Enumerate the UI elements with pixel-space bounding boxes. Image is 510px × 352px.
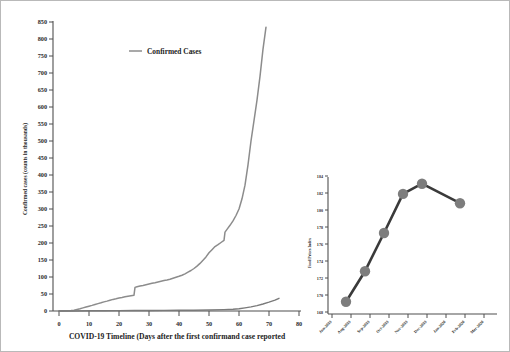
inset-x-tick: Jun-2019	[318, 314, 333, 334]
main-y-tick: 350	[38, 188, 53, 195]
main-x-tick: 40	[176, 311, 182, 327]
inset-y-tick-label: 172	[317, 276, 323, 281]
main-x-tick: 70	[266, 311, 272, 327]
main-y-tick-label: 250	[38, 222, 47, 229]
main-y-tick: 800	[38, 35, 53, 42]
main-y-ticks: 0 50 100 150 200 250 300 350 400 450 500…	[38, 18, 53, 314]
main-x-ticks: 0 10 20 30 40 50 60 70 80	[57, 311, 302, 327]
inset-y-tick: 180	[317, 208, 328, 213]
inset-y-ticks: 168 170 172 174 176 178 180 182 184	[317, 174, 328, 315]
inset-data-marker	[455, 198, 465, 208]
main-y-tick-label: 300	[38, 205, 47, 212]
inset-x-tick-label: Oct-2019	[375, 319, 390, 334]
inset-data-marker	[341, 297, 351, 307]
main-x-tick-label: 10	[86, 320, 92, 327]
main-x-tick-label: 40	[176, 320, 182, 327]
main-x-tick-label: 50	[206, 320, 212, 327]
inset-y-tick-label: 174	[317, 259, 323, 264]
main-legend: Confirmed Cases	[129, 47, 202, 56]
main-x-tick-label: 30	[146, 320, 152, 327]
main-chart: 0 50 100 150 200 250 300 350 400 450 500…	[22, 18, 302, 341]
main-y-tick-label: 150	[38, 256, 47, 263]
inset-data-marker	[360, 266, 370, 276]
main-x-tick: 0	[57, 311, 60, 327]
inset-series-line	[346, 184, 460, 302]
main-y-tick-label: 50	[41, 290, 47, 297]
figure-svg: 0 50 100 150 200 250 300 350 400 450 500…	[1, 1, 510, 352]
inset-y-tick: 182	[317, 191, 328, 196]
inset-x-tick: Dec-2019	[413, 314, 428, 334]
inset-y-tick: 172	[317, 276, 328, 281]
figure-container: 0 50 100 150 200 250 300 350 400 450 500…	[0, 0, 510, 352]
main-y-tick: 50	[41, 290, 53, 297]
main-x-tick-label: 20	[116, 320, 122, 327]
main-y-tick: 700	[38, 69, 53, 76]
main-y-tick-label: 100	[38, 273, 47, 280]
main-y-tick: 650	[38, 86, 53, 93]
inset-x-tick-label: Dec-2019	[413, 319, 428, 334]
main-x-tick-label: 80	[296, 320, 302, 327]
main-y-tick: 850	[38, 18, 53, 25]
main-series-confirmed-cases	[59, 27, 266, 311]
main-y-tick-label: 600	[38, 103, 47, 110]
main-y-tick-label: 200	[38, 239, 47, 246]
inset-chart: 168 170 172 174 176 178 180 182 184 Jun-…	[308, 174, 497, 335]
inset-y-tick: 168	[317, 310, 328, 315]
main-y-tick: 0	[44, 307, 53, 314]
main-y-tick-label: 700	[38, 69, 47, 76]
inset-x-tick: Feb-2020	[451, 314, 466, 334]
main-x-axis-title: COVID-19 Timeline (Days after the first …	[69, 332, 286, 341]
main-y-tick-label: 450	[38, 154, 47, 161]
inset-x-tick: Sep-2019	[356, 314, 371, 334]
main-y-tick: 200	[38, 239, 53, 246]
main-x-tick: 30	[146, 311, 152, 327]
main-y-tick: 550	[38, 120, 53, 127]
main-y-tick-label: 800	[38, 35, 47, 42]
inset-y-tick: 178	[317, 225, 328, 230]
main-x-tick-label: 60	[236, 320, 242, 327]
inset-y-tick-label: 168	[317, 310, 323, 315]
inset-x-tick-label: Feb-2020	[451, 319, 466, 334]
main-y-tick-label: 350	[38, 188, 47, 195]
inset-x-tick-label: Jun-2019	[318, 319, 333, 334]
inset-x-ticks: Jun-2019 Aug-2019 Sep-2019 Oct-2019 Nov-…	[318, 314, 485, 335]
main-x-tick: 80	[296, 311, 302, 327]
main-y-tick-label: 400	[38, 171, 47, 178]
main-y-tick: 750	[38, 52, 53, 59]
main-y-tick-label: 0	[44, 307, 47, 314]
inset-data-marker	[398, 189, 408, 199]
inset-y-tick-label: 184	[317, 174, 323, 179]
main-x-tick-label: 0	[57, 320, 60, 327]
inset-x-tick: Aug-2019	[336, 314, 351, 335]
main-y-tick: 100	[38, 273, 53, 280]
main-y-tick: 300	[38, 205, 53, 212]
main-y-tick: 600	[38, 103, 53, 110]
main-y-tick-label: 650	[38, 86, 47, 93]
inset-y-tick-label: 170	[317, 293, 323, 298]
main-x-tick-label: 70	[266, 320, 272, 327]
main-y-tick-label: 750	[38, 52, 47, 59]
main-x-tick: 20	[116, 311, 122, 327]
inset-y-tick-label: 178	[317, 225, 323, 230]
inset-y-tick-label: 180	[317, 208, 323, 213]
inset-y-tick: 184	[317, 174, 328, 179]
inset-x-tick-label: Mar-2020	[469, 319, 485, 335]
inset-y-tick: 170	[317, 293, 328, 298]
main-y-tick-label: 550	[38, 120, 47, 127]
inset-y-tick-label: 182	[317, 191, 323, 196]
main-y-tick: 150	[38, 256, 53, 263]
inset-x-tick-label: Jan-2020	[432, 319, 447, 334]
main-y-tick-label: 500	[38, 137, 47, 144]
main-y-axis-title: Confirmed cases (counts in thousands)	[22, 123, 29, 215]
inset-data-marker	[417, 179, 427, 189]
inset-x-tick: Jan-2020	[432, 314, 447, 334]
main-y-tick-label: 850	[38, 18, 47, 25]
main-x-tick: 10	[86, 311, 92, 327]
inset-data-marker	[379, 228, 389, 238]
inset-y-tick-label: 176	[317, 242, 323, 247]
inset-x-tick: Mar-2020	[469, 314, 485, 335]
main-x-tick: 50	[206, 311, 212, 327]
main-y-tick: 450	[38, 154, 53, 161]
main-y-tick: 400	[38, 171, 53, 178]
legend-label-confirmed-cases: Confirmed Cases	[147, 47, 202, 56]
